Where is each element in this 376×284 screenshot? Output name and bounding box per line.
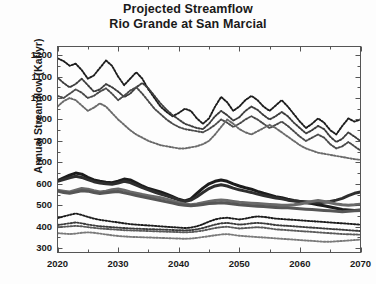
y-tick-label: 700 (18, 156, 52, 167)
x-tick-label: 2040 (159, 258, 199, 269)
chart-figure: Projected Streamflow Rio Grande at San M… (0, 0, 376, 284)
series-line-upper-band-2 (58, 78, 361, 142)
series-layer (58, 58, 361, 241)
y-tick-label: 1100 (18, 71, 52, 82)
y-tick-label: 1200 (18, 49, 52, 60)
y-tick-label: 400 (18, 221, 52, 232)
x-tick-label: 2060 (280, 258, 320, 269)
plot-area (0, 0, 376, 284)
y-tick-label: 900 (18, 113, 52, 124)
y-tick-label: 300 (18, 242, 52, 253)
y-tick-label: 500 (18, 199, 52, 210)
x-tick-label: 2050 (219, 258, 259, 269)
y-tick-label: 800 (18, 135, 52, 146)
x-tick-label: 2070 (341, 258, 376, 269)
y-tick-label: 1000 (18, 92, 52, 103)
x-tick-label: 2020 (38, 258, 78, 269)
y-tick-label: 600 (18, 178, 52, 189)
series-line-lower-band-4 (58, 232, 361, 241)
x-tick-label: 2030 (98, 258, 138, 269)
